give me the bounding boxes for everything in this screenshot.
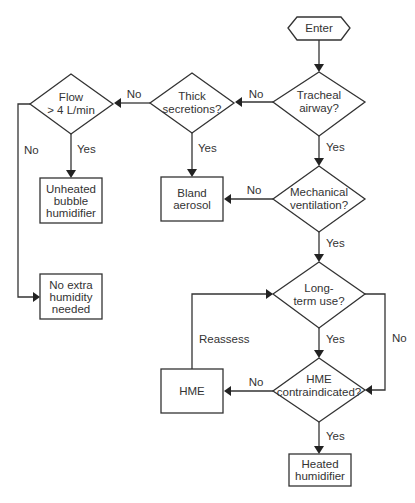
edge-label-no: No xyxy=(249,376,264,388)
node-label: Thick xyxy=(178,90,206,102)
edge-thick-flow-no: No xyxy=(114,88,150,108)
edge-label-no: No xyxy=(24,144,39,156)
edge-thick-bland-yes: Yes xyxy=(187,133,217,177)
node-mechanical-ventilation: Mechanical ventilation? xyxy=(273,166,365,232)
node-label: airway? xyxy=(299,102,339,114)
edge-tracheal-mechvent-yes: Yes xyxy=(314,136,345,166)
node-label: humidifier xyxy=(295,470,345,482)
node-label: Tracheal xyxy=(297,89,341,101)
node-label: contraindicated? xyxy=(277,386,361,398)
edge-label-yes: Yes xyxy=(326,141,345,153)
edge-label-no: No xyxy=(127,88,142,100)
node-label: humidity xyxy=(50,291,93,303)
edge-label-yes: Yes xyxy=(77,143,96,155)
node-tracheal-airway: Tracheal airway? xyxy=(273,72,365,136)
node-label: Heated xyxy=(301,458,338,470)
edge-mechvent-longterm-yes: Yes xyxy=(314,232,345,262)
node-no-extra-humidity: No extra humidity needed xyxy=(40,274,102,319)
node-label: Long- xyxy=(304,282,334,294)
edge-hme-longterm-reassess: Reassess xyxy=(192,289,273,369)
edge-flow-unheated-yes: Yes xyxy=(66,134,96,178)
node-label: secretions? xyxy=(163,103,222,115)
node-label: needed xyxy=(52,303,90,315)
node-label: > 4 L/min xyxy=(47,104,95,116)
node-unheated-bubble-humidifier: Unheated bubble humidifier xyxy=(40,178,102,223)
edge-label-yes: Yes xyxy=(198,142,217,154)
node-heated-humidifier: Heated humidifier xyxy=(289,454,351,486)
node-label: HME xyxy=(179,385,205,397)
edge-enter-tracheal xyxy=(314,40,324,72)
node-thick-secretions: Thick secretions? xyxy=(150,73,234,133)
edge-mechvent-bland-no: No xyxy=(224,184,273,204)
node-label: term use? xyxy=(293,295,344,307)
edge-label-no: No xyxy=(392,332,407,344)
edge-hmecontra-hme-no: No xyxy=(224,376,273,396)
node-hme: HME xyxy=(161,369,223,413)
edge-hmecontra-heated-yes: Yes xyxy=(314,422,345,454)
node-enter-label: Enter xyxy=(305,22,333,34)
node-enter: Enter xyxy=(288,17,350,40)
edge-tracheal-thick-no: No xyxy=(235,88,273,107)
edge-label-no: No xyxy=(247,184,262,196)
edge-longterm-hmecontra-no: No xyxy=(365,294,407,395)
edge-flow-noextra-no: No xyxy=(18,104,40,302)
node-label: bubble xyxy=(54,195,89,207)
edge-label-yes: Yes xyxy=(326,333,345,345)
node-label: Mechanical xyxy=(290,186,348,198)
edge-label-yes: Yes xyxy=(326,237,345,249)
edge-label-reassess: Reassess xyxy=(199,333,250,345)
node-label: Flow xyxy=(59,91,84,103)
node-long-term-use: Long- term use? xyxy=(273,262,365,328)
node-hme-contraindicated: HME contraindicated? xyxy=(273,358,365,422)
edge-label-yes: Yes xyxy=(326,430,345,442)
node-bland-aerosol: Bland aerosol xyxy=(161,177,223,221)
node-label: HME xyxy=(306,373,332,385)
node-label: aerosol xyxy=(173,199,211,211)
node-label: No extra xyxy=(49,279,93,291)
humidification-flowchart: No Yes No Yes Yes No No Yes xyxy=(0,0,415,503)
edge-label-no: No xyxy=(249,88,264,100)
node-flow: Flow > 4 L/min xyxy=(30,74,113,134)
node-label: ventilation? xyxy=(290,199,348,211)
node-label: humidifier xyxy=(46,207,96,219)
node-label: Bland xyxy=(177,187,206,199)
edge-longterm-hmecontra-yes: Yes xyxy=(314,328,345,358)
node-label: Unheated xyxy=(46,183,96,195)
